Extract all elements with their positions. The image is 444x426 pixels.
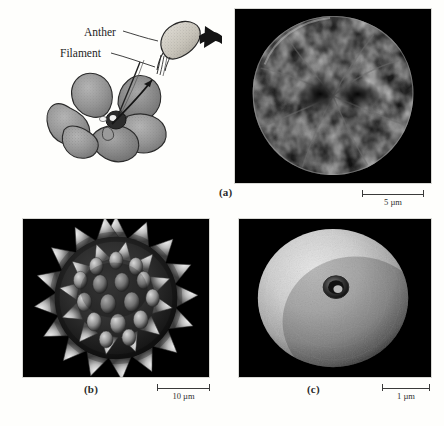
- scalebar-panel-c: 1 µm: [382, 384, 430, 401]
- scalebar-line-b: [157, 384, 210, 391]
- scalebar-label-b: 10 µm: [157, 391, 210, 401]
- panel-b-label: (b): [84, 383, 98, 395]
- micrograph-panel-c: [238, 218, 432, 378]
- scalebar-line-a: [362, 190, 424, 197]
- scalebar-panel-a: 5 µm: [362, 190, 424, 207]
- micrograph-panel-b: [22, 218, 210, 378]
- scalebar-label-c: 1 µm: [382, 391, 430, 401]
- flower-illustration: Anther Filament: [0, 0, 222, 200]
- panel-c-label: (c): [307, 383, 320, 395]
- anther-label: Anther: [84, 26, 116, 38]
- scalebar-panel-b: 10 µm: [157, 384, 210, 401]
- scalebar-label-a: 5 µm: [362, 197, 424, 207]
- panel-a-label: (a): [219, 186, 232, 198]
- scalebar-line-c: [382, 384, 430, 391]
- pollen-micrograph-figure: Anther Filament: [0, 0, 444, 426]
- filament-label: Filament: [60, 47, 101, 59]
- micrograph-panel-a: [234, 8, 432, 184]
